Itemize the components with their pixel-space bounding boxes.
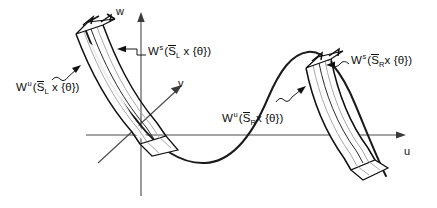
ws-left-theta: {θ} [193,45,207,57]
wu-right-S: S [243,113,251,125]
axis-label-w: w [116,6,124,17]
ws-left-cross: x [180,45,192,57]
figure-canvas [0,0,437,208]
label-stable-manifold-right: Ws(SRx {θ}) [351,55,412,67]
wu-right-W: W [222,112,233,124]
leader-wu-right [276,89,302,102]
wu-right-close: ) [280,112,284,124]
wu-right-cross: x [256,112,265,124]
label-stable-manifold-left: Ws(SL x {θ}) [148,46,211,58]
wu-right-theta: {θ} [265,112,279,124]
wu-left-cross: x [49,81,61,93]
wu-left-close: ) [76,81,80,93]
ws-left-W: W [148,45,159,57]
wu-left-theta: {θ} [61,81,75,93]
axis-label-u: u [404,146,410,157]
right-slab-group [306,49,388,180]
leader-ws-left [123,49,146,55]
ws-right-theta: {θ} [394,54,408,66]
wu-left-W: W [16,81,27,93]
w-axis-arrowhead [137,12,144,22]
ws-right-W: W [351,54,362,66]
label-unstable-manifold-right: Wu(SRx {θ}) [222,113,283,125]
right-slab-bottom-cap [351,160,388,180]
ws-right-close: ) [408,54,412,66]
ws-right-cross: x [385,54,394,66]
label-unstable-manifold-left: Wu(SL x {θ}) [16,82,80,94]
left-slab-top-cap [76,19,115,34]
leader-ws-left-head [117,46,126,52]
ws-left-S: S [168,46,176,58]
u-axis-arrowhead [396,131,406,138]
wu-left-S: S [37,82,45,94]
manifold-diagram: w v u Wu(SL x {θ}) Ws(SL x {θ}) Wu(SRx {… [0,0,437,208]
leader-wu-right-head [297,86,306,94]
axis-label-v: v [178,78,184,89]
ws-left-close: ) [207,45,211,57]
ws-right-S: S [371,55,379,67]
